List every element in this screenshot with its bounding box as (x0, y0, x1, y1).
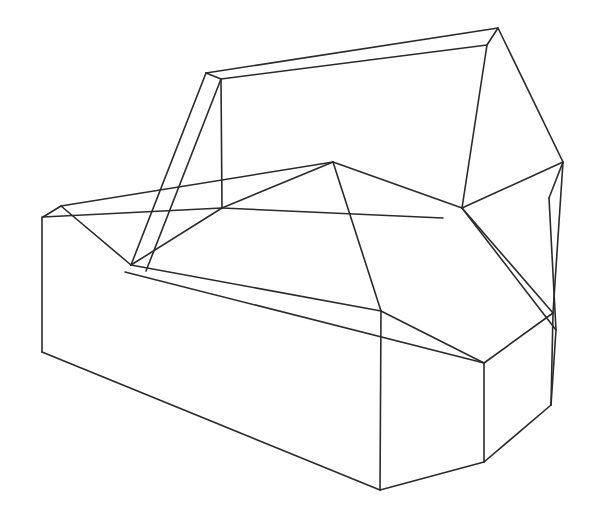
edge-base-front-vertical (380, 311, 381, 490)
edge-upright-front-vertical (221, 79, 222, 208)
wireframe-drawing (0, 0, 609, 525)
figure-root: Isometric Wireframe Line Drawing Black-o… (0, 0, 609, 525)
drawing-background (0, 0, 609, 525)
